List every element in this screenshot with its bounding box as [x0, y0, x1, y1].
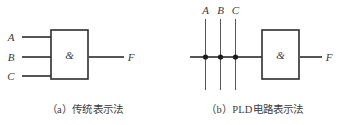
input-label-b: B [8, 51, 15, 63]
pld-input-label-a: A [201, 4, 209, 16]
logic-gate-figure: A B C & F A B C [0, 0, 340, 125]
panel-traditional: A B C & F [7, 30, 135, 82]
input-label-c: C [7, 70, 15, 82]
connection-dot-b [218, 54, 223, 59]
input-label-a: A [7, 31, 15, 43]
pld-input-label-b: B [217, 4, 224, 16]
output-label-f: F [127, 51, 135, 63]
caption-panel-b: （b）PLD电路表示法 [170, 101, 340, 116]
pld-output-label-f: F [325, 51, 333, 63]
connection-dot-c [233, 54, 238, 59]
panel-pld: A B C & F [190, 4, 333, 90]
pld-and-gate-symbol: & [276, 49, 285, 61]
and-gate-symbol: & [65, 49, 74, 61]
pld-input-label-c: C [232, 4, 240, 16]
caption-panel-a: （a）传统表示法 [0, 101, 170, 116]
connection-dot-a [203, 54, 208, 59]
